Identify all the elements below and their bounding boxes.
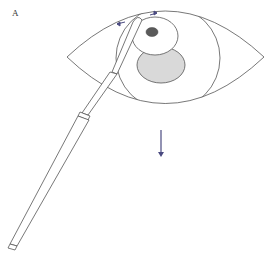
down-arrow-icon xyxy=(158,130,164,157)
eye-surgery-diagram xyxy=(0,0,274,258)
dark-spot xyxy=(146,28,158,37)
